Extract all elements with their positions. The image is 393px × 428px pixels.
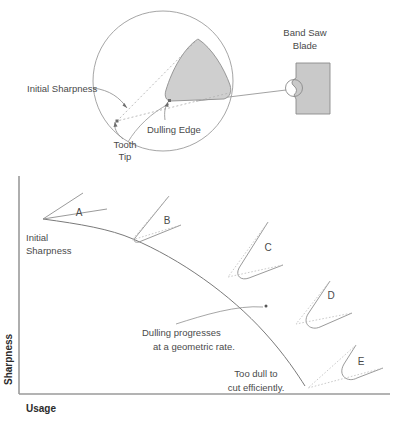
tooth-c-original-dotted [228,222,283,277]
initial-sharpness-chart-line2: Sharpness [26,245,72,256]
tooth-tip-label-line2: Tip [119,151,132,162]
dulling-rate-text-line2: at a geometric rate. [153,341,235,352]
top-diagram-group: Band Saw Blade Initial Sharpness Dulling… [27,11,330,162]
dulling-rate-leader [176,307,263,324]
tooth-c-label: C [264,242,271,253]
curve-midpoint-dot [265,305,268,308]
tooth-a-label: A [76,207,83,218]
tooth-e-original-dotted [308,345,383,388]
initial-sharpness-chart-line1: Initial [26,232,48,243]
tooth-d-label: D [327,290,334,301]
tooth-b-label: B [164,215,171,226]
tooth-profile-a: A [43,193,107,219]
band-saw-blade-label-line2: Blade [293,40,317,51]
initial-sharpness-leader [93,88,127,108]
tooth-profile-c: C [228,222,283,279]
too-dull-text-line2: cut efficiently. [228,382,285,393]
dulling-rate-text-line1: Dulling progresses [142,327,221,338]
tooth-tip-label-line1: Tooth [113,139,136,150]
tooth-b-original-dotted [132,196,181,240]
band-saw-blade-shape [292,63,330,114]
tooth-d-original-dotted [296,281,352,324]
y-axis-label: Sharpness [3,333,14,385]
tooth-tip-marker [116,120,119,123]
tooth-b-shape [134,196,181,242]
dulling-edge-label: Dulling Edge [147,124,201,135]
initial-sharpness-label-top: Initial Sharpness [27,83,97,94]
saw-tooth-dulling-figure: Band Saw Blade Initial Sharpness Dulling… [0,0,393,428]
dulling-edge-marker [168,99,171,102]
tooth-e-label: E [358,356,365,367]
tooth-tip-arrowhead [114,122,118,127]
tooth-profile-b: B [132,196,181,242]
band-saw-blade-label-line1: Band Saw [283,27,326,38]
x-axis-label: Usage [26,403,56,414]
tooth-tip-arc [128,104,169,142]
tooth-profile-d: D [296,281,352,328]
dulled-tooth-shape [165,39,231,101]
sharpness-usage-chart: A B C D [3,176,390,414]
too-dull-text-line1: Too dull to [234,368,277,379]
tooth-profile-e: E [308,345,383,388]
figure-canvas: Band Saw Blade Initial Sharpness Dulling… [0,0,393,428]
tooth-c-shape [238,222,283,279]
